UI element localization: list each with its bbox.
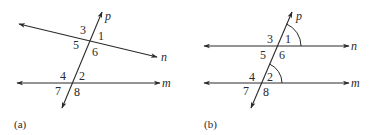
caption-a: (a)	[14, 118, 27, 131]
line-n	[19, 24, 157, 57]
label-m: m	[351, 76, 360, 90]
angle-4: 4	[249, 70, 255, 84]
angle-2: 2	[79, 69, 85, 83]
figure: p n m 3 1 5 6 4 2 7 8 (a) p n m 3 1 5 6 …	[0, 0, 373, 135]
angle-5: 5	[260, 48, 266, 62]
caption-b: (b)	[204, 118, 217, 131]
angle-3: 3	[80, 23, 86, 37]
angle-7: 7	[55, 84, 61, 98]
label-n: n	[161, 50, 167, 64]
line-p	[251, 12, 292, 108]
angle-6: 6	[279, 48, 285, 62]
angle-7: 7	[243, 84, 249, 98]
label-p: p	[295, 9, 302, 23]
panel-a: p n m 3 1 5 6 4 2 7 8 (a)	[14, 9, 171, 131]
angle-8: 8	[263, 85, 269, 99]
angle-1: 1	[285, 32, 291, 46]
label-m: m	[162, 76, 171, 90]
angle-2: 2	[267, 70, 273, 84]
angle-1: 1	[98, 29, 104, 43]
angle-8: 8	[74, 85, 80, 99]
angle-6: 6	[92, 45, 98, 59]
label-p: p	[104, 9, 111, 23]
label-n: n	[351, 39, 357, 53]
angle-3: 3	[267, 32, 273, 46]
panel-b: p n m 3 1 5 6 4 2 7 8 (b)	[204, 9, 360, 131]
angle-5: 5	[73, 38, 79, 52]
angle-4: 4	[60, 69, 66, 83]
